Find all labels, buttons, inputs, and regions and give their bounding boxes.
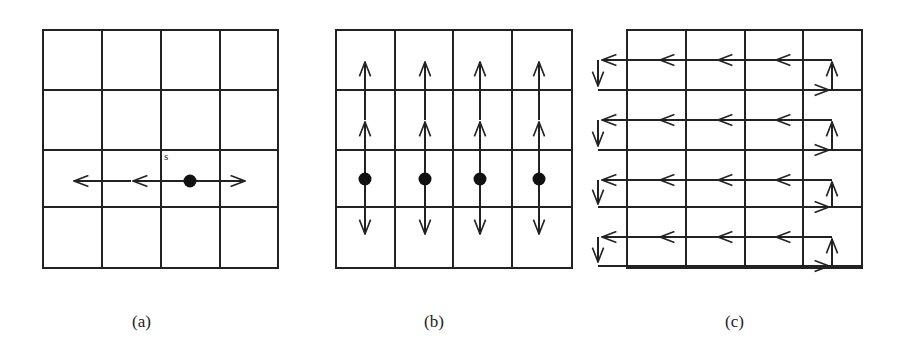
start-label: s [164,150,168,162]
caption-b: (b) [424,312,444,332]
panel-b-grid [336,30,572,268]
agent-dot [184,175,197,188]
panel-a-grid [43,30,278,268]
figure-canvas [0,0,901,354]
caption-c: (c) [725,312,744,332]
caption-a: (a) [132,312,151,332]
